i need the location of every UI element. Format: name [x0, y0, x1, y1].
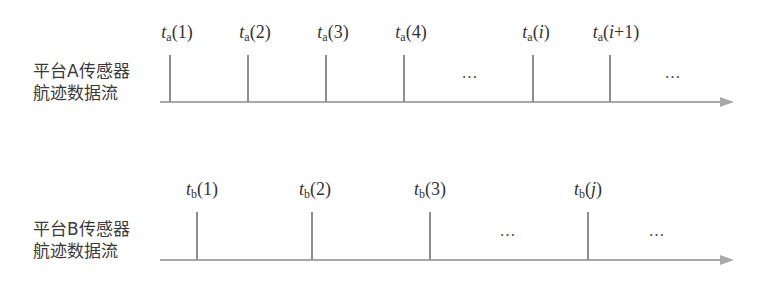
label-tb-3: tb(3): [414, 179, 446, 202]
ellipsis-a-2: …: [665, 64, 682, 82]
tick-tb-3: [429, 212, 431, 260]
tick-ta-1: [169, 55, 171, 102]
tick-ta-3: [325, 55, 327, 102]
label-ta-i: ta(i): [522, 22, 549, 45]
tick-tb-2: [311, 212, 313, 260]
tick-ta-2: [247, 55, 249, 102]
label-ta-2: ta(2): [239, 22, 270, 45]
tick-tb-j: [587, 212, 589, 260]
tick-tb-1: [196, 212, 198, 260]
label-tb-1: tb(1): [186, 179, 218, 202]
stream-a-time-axis: [160, 101, 722, 103]
tick-ta-4: [403, 55, 405, 102]
tick-ta-i-plus-1: [609, 55, 611, 102]
label-ta-4: ta(4): [395, 22, 426, 45]
label-ta-i-plus-1: ta(i+1): [593, 22, 640, 45]
stream-a-label: 平台A传感器 航迹数据流: [33, 60, 130, 104]
stream-b-time-axis: [160, 259, 722, 261]
stream-b-label-line2: 航迹数据流: [33, 240, 130, 262]
stream-b-arrow-icon: [720, 255, 734, 265]
stream-b-label: 平台B传感器 航迹数据流: [33, 218, 130, 262]
label-ta-1: ta(1): [161, 22, 192, 45]
label-ta-3: ta(3): [317, 22, 348, 45]
tick-ta-i: [532, 55, 534, 102]
ellipsis-b-1: …: [500, 222, 517, 240]
stream-a-label-line1: 平台A传感器: [33, 60, 130, 82]
label-tb-2: tb(2): [299, 179, 331, 202]
stream-a-arrow-icon: [720, 97, 734, 107]
stream-a-label-line2: 航迹数据流: [33, 82, 130, 104]
stream-b-label-line1: 平台B传感器: [33, 218, 130, 240]
label-tb-j: tb(j): [574, 179, 602, 202]
ellipsis-b-2: …: [649, 222, 666, 240]
ellipsis-a-1: …: [462, 64, 479, 82]
